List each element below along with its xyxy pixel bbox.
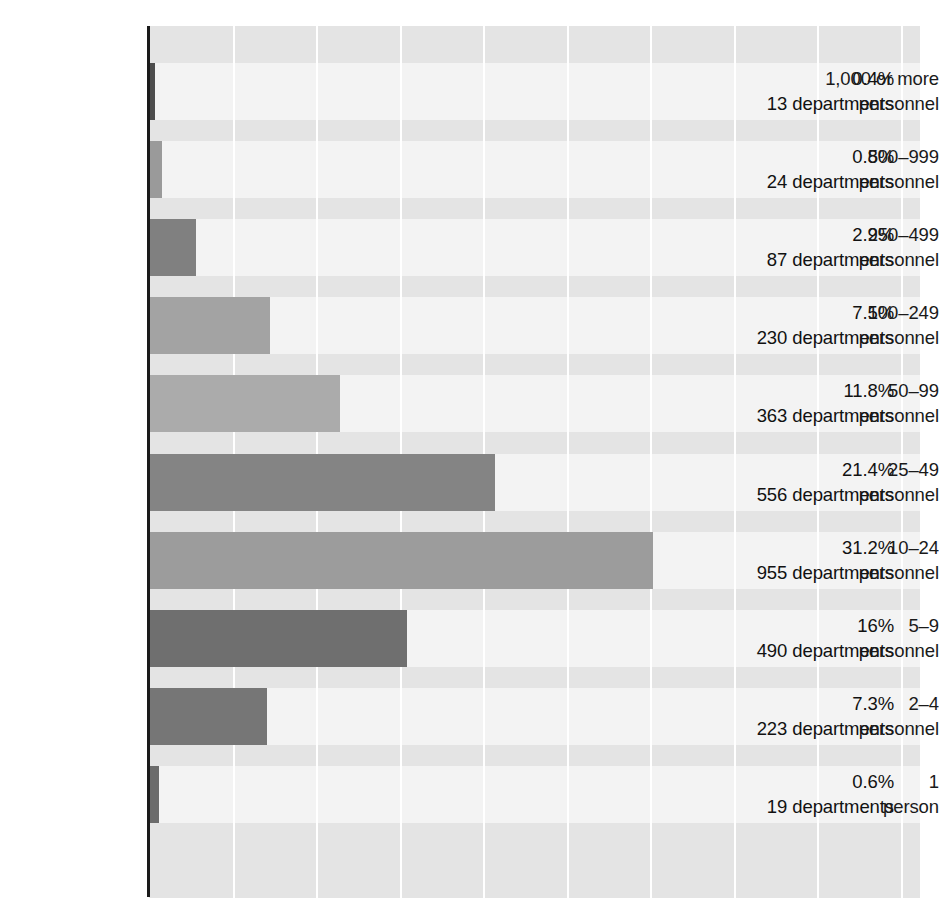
category-label: 2–4personnel	[800, 691, 939, 741]
category-label-line1: 10–24	[800, 535, 939, 560]
category-label: 50–99personnel	[800, 378, 939, 428]
category-label-line1: 25–49	[800, 457, 939, 482]
category-label-line1: 100–249	[800, 300, 939, 325]
category-label-line2: personnel	[800, 560, 939, 585]
category-label-line1: 50–99	[800, 378, 939, 403]
category-label: 100–249personnel	[800, 300, 939, 350]
bar	[149, 688, 267, 745]
gridline	[734, 26, 736, 898]
value-axis-line	[147, 26, 150, 897]
bar	[149, 141, 162, 198]
category-label-line2: personnel	[800, 403, 939, 428]
figure-footer-strip	[0, 898, 939, 923]
category-label: 250–499personnel	[800, 222, 939, 272]
category-label-line1: 500–999	[800, 144, 939, 169]
category-label-line2: person	[800, 794, 939, 819]
bar	[149, 219, 196, 276]
gridline	[567, 26, 569, 898]
category-label: 1person	[800, 769, 939, 819]
category-label-line2: personnel	[800, 169, 939, 194]
bar	[149, 297, 270, 354]
bar	[149, 766, 159, 823]
bar	[149, 532, 653, 589]
bar-chart-figure: 0.4%13 departments0.8%24 departments2.9%…	[0, 0, 939, 923]
gridline	[650, 26, 652, 898]
category-label-line1: 1,000 or more	[800, 66, 939, 91]
category-label-line1: 2–4	[800, 691, 939, 716]
category-label-line2: personnel	[800, 482, 939, 507]
category-label-line2: personnel	[800, 638, 939, 663]
category-label-line1: 250–499	[800, 222, 939, 247]
category-label-line2: personnel	[800, 325, 939, 350]
category-label-line2: personnel	[800, 91, 939, 116]
category-label-line1: 5–9	[800, 613, 939, 638]
category-label-line2: personnel	[800, 247, 939, 272]
category-label: 1,000 or morepersonnel	[800, 66, 939, 116]
bar	[149, 454, 495, 511]
bar	[149, 375, 340, 432]
category-label: 500–999personnel	[800, 144, 939, 194]
category-label-line2: personnel	[800, 716, 939, 741]
category-label: 25–49personnel	[800, 457, 939, 507]
category-label-line1: 1	[800, 769, 939, 794]
bar	[149, 610, 407, 667]
category-label: 5–9personnel	[800, 613, 939, 663]
category-label: 10–24personnel	[800, 535, 939, 585]
